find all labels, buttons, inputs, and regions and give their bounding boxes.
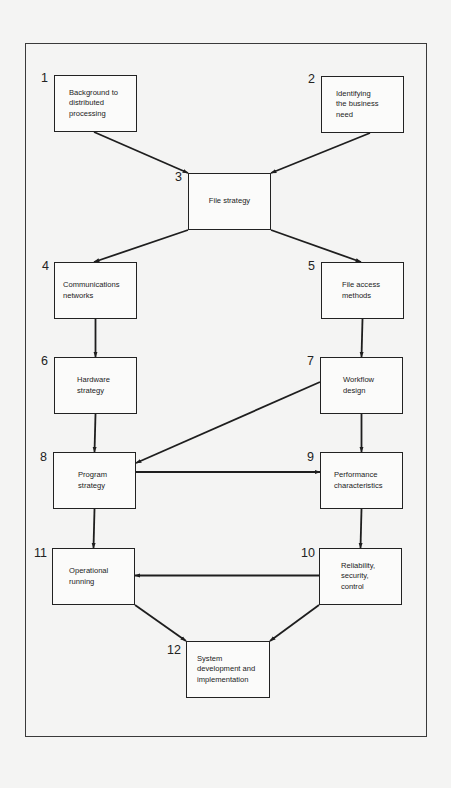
node-number-9: 9 bbox=[307, 451, 314, 463]
node-label: File access methods bbox=[342, 280, 380, 301]
node-label: System development and implementation bbox=[197, 654, 255, 686]
node-communications-networks: Communications networks bbox=[54, 262, 137, 319]
node-number-12: 12 bbox=[167, 644, 181, 656]
node-number-1: 1 bbox=[41, 72, 48, 84]
node-label: Performance characteristics bbox=[334, 470, 383, 491]
node-number-8: 8 bbox=[40, 451, 47, 463]
arrow-3-to-5 bbox=[271, 230, 361, 262]
node-operational-running: Operational running bbox=[52, 548, 135, 605]
arrow-2-to-3 bbox=[271, 133, 370, 173]
node-identifying-business-need: Identifying the business need bbox=[321, 76, 404, 133]
node-number-10: 10 bbox=[301, 547, 315, 559]
node-label: Reliability, security, control bbox=[341, 561, 375, 593]
node-workflow-design: Workflow design bbox=[320, 357, 403, 414]
arrow-5-to-7 bbox=[362, 319, 363, 357]
node-label: Identifying the business need bbox=[336, 89, 379, 121]
node-hardware-strategy: Hardware strategy bbox=[54, 357, 137, 414]
node-number-3: 3 bbox=[175, 171, 182, 183]
node-label: Hardware strategy bbox=[77, 375, 110, 396]
node-label: Program strategy bbox=[78, 470, 107, 491]
node-label: Background to distributed processing bbox=[69, 88, 118, 120]
node-label: Operational running bbox=[69, 566, 108, 587]
node-number-2: 2 bbox=[308, 73, 315, 85]
node-number-6: 6 bbox=[41, 355, 48, 367]
node-performance-characteristics: Performance characteristics bbox=[320, 452, 403, 509]
node-background-to-distributed-processing: Background to distributed processing bbox=[54, 75, 137, 132]
arrow-10-to-12 bbox=[270, 605, 319, 641]
node-reliability-security-control: Reliability, security, control bbox=[319, 548, 402, 605]
node-number-4: 4 bbox=[42, 260, 49, 272]
node-label: Workflow design bbox=[343, 375, 374, 396]
node-system-development-and-implementation: System development and implementation bbox=[186, 641, 270, 698]
node-label: Communications networks bbox=[63, 280, 120, 301]
node-number-5: 5 bbox=[308, 260, 315, 272]
node-number-11: 11 bbox=[34, 547, 47, 559]
node-program-strategy: Program strategy bbox=[53, 452, 136, 509]
node-file-access-methods: File access methods bbox=[321, 262, 404, 319]
arrow-9-to-10 bbox=[361, 509, 362, 548]
arrow-3-to-4 bbox=[94, 230, 188, 262]
arrow-11-to-12 bbox=[135, 605, 186, 641]
node-number-7: 7 bbox=[307, 355, 314, 367]
arrow-7-to-8 bbox=[136, 382, 320, 463]
arrow-8-to-11 bbox=[94, 509, 95, 548]
node-file-strategy: File strategy bbox=[188, 173, 271, 230]
arrow-1-to-3 bbox=[94, 132, 188, 173]
node-label: File strategy bbox=[209, 196, 250, 207]
arrow-6-to-8 bbox=[95, 414, 96, 452]
